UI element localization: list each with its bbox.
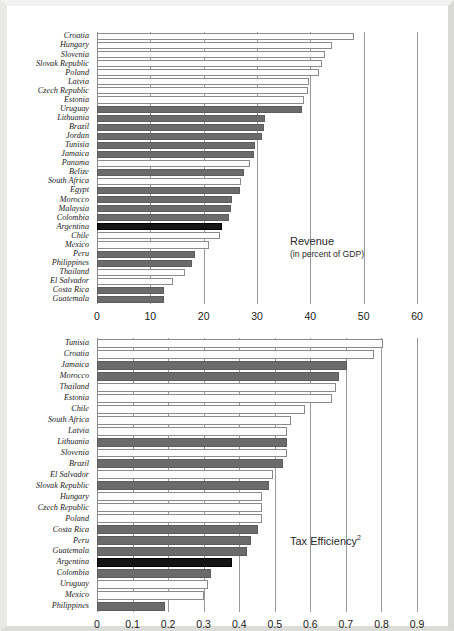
bar-row[interactable]: [97, 150, 417, 159]
bar-row[interactable]: [97, 32, 417, 41]
bar-czech-republic[interactable]: [97, 503, 262, 512]
bar-croatia[interactable]: [97, 350, 374, 359]
bar-belize[interactable]: [97, 169, 244, 176]
bar-jamaica[interactable]: [97, 151, 254, 158]
bar-argentina[interactable]: [97, 558, 232, 567]
bar-row[interactable]: [97, 295, 417, 304]
bar-poland[interactable]: [97, 514, 262, 523]
bar-estonia[interactable]: [97, 394, 332, 403]
bar-row[interactable]: [97, 132, 417, 141]
bar-latvia[interactable]: [97, 427, 287, 436]
bar-row[interactable]: [97, 259, 417, 268]
bar-slovenia[interactable]: [97, 51, 325, 58]
bar-guatemala[interactable]: [97, 547, 247, 556]
bar-uruguay[interactable]: [97, 580, 208, 589]
bar-row[interactable]: [97, 286, 417, 295]
bar-row[interactable]: [97, 568, 417, 579]
bar-morocco[interactable]: [97, 372, 339, 381]
bar-row[interactable]: [97, 59, 417, 68]
bar-morocco[interactable]: [97, 196, 232, 203]
bar-row[interactable]: [97, 557, 417, 568]
bar-row[interactable]: [97, 177, 417, 186]
bar-slovenia[interactable]: [97, 449, 287, 458]
bar-row[interactable]: [97, 204, 417, 213]
bar-row[interactable]: [97, 231, 417, 240]
bar-row[interactable]: [97, 437, 417, 448]
bar-row[interactable]: [97, 458, 417, 469]
bar-row[interactable]: [97, 382, 417, 393]
bar-row[interactable]: [97, 579, 417, 590]
bar-row[interactable]: [97, 41, 417, 50]
bar-row[interactable]: [97, 546, 417, 557]
bar-brazil[interactable]: [97, 124, 264, 131]
bar-row[interactable]: [97, 105, 417, 114]
bar-costa-rica[interactable]: [97, 525, 258, 534]
bar-row[interactable]: [97, 213, 417, 222]
bar-row[interactable]: [97, 601, 417, 612]
bar-chile[interactable]: [97, 232, 220, 239]
bar-row[interactable]: [97, 95, 417, 104]
bar-row[interactable]: [97, 469, 417, 480]
bar-brazil[interactable]: [97, 459, 283, 468]
bar-row[interactable]: [97, 426, 417, 437]
bar-row[interactable]: [97, 371, 417, 382]
bar-thailand[interactable]: [97, 383, 336, 392]
bar-peru[interactable]: [97, 536, 251, 545]
bar-row[interactable]: [97, 222, 417, 231]
bar-row[interactable]: [97, 480, 417, 491]
bar-panama[interactable]: [97, 160, 250, 167]
bar-row[interactable]: [97, 50, 417, 59]
bar-row[interactable]: [97, 277, 417, 286]
bar-chile[interactable]: [97, 405, 305, 414]
bar-philippines[interactable]: [97, 602, 165, 611]
bar-row[interactable]: [97, 195, 417, 204]
bar-malaysia[interactable]: [97, 205, 231, 212]
bar-row[interactable]: [97, 68, 417, 77]
bar-peru[interactable]: [97, 251, 195, 258]
bar-guatemala[interactable]: [97, 296, 164, 303]
bar-colombia[interactable]: [97, 214, 229, 221]
bar-costa-rica[interactable]: [97, 287, 164, 294]
bar-tunisia[interactable]: [97, 142, 255, 149]
bar-lithuania[interactable]: [97, 438, 287, 447]
bar-row[interactable]: [97, 349, 417, 360]
bar-jordan[interactable]: [97, 133, 262, 140]
bar-row[interactable]: [97, 502, 417, 513]
bar-el-salvador[interactable]: [97, 470, 273, 479]
bar-row[interactable]: [97, 168, 417, 177]
bar-row[interactable]: [97, 491, 417, 502]
bar-colombia[interactable]: [97, 569, 211, 578]
bar-south-africa[interactable]: [97, 178, 241, 185]
bar-lithuania[interactable]: [97, 115, 265, 122]
bar-czech-republic[interactable]: [97, 87, 308, 94]
bar-row[interactable]: [97, 448, 417, 459]
bar-latvia[interactable]: [97, 78, 309, 85]
bar-row[interactable]: [97, 86, 417, 95]
bar-el-salvador[interactable]: [97, 278, 173, 285]
bar-tunisia[interactable]: [97, 339, 383, 348]
bar-row[interactable]: [97, 240, 417, 249]
bar-south-africa[interactable]: [97, 416, 291, 425]
bar-uruguay[interactable]: [97, 106, 302, 113]
bar-philippines[interactable]: [97, 260, 192, 267]
bar-row[interactable]: [97, 404, 417, 415]
bar-jamaica[interactable]: [97, 361, 347, 370]
bar-poland[interactable]: [97, 69, 319, 76]
bar-row[interactable]: [97, 360, 417, 371]
bar-hungary[interactable]: [97, 42, 332, 49]
bar-row[interactable]: [97, 77, 417, 86]
bar-mexico[interactable]: [97, 241, 209, 248]
bar-row[interactable]: [97, 415, 417, 426]
bar-row[interactable]: [97, 268, 417, 277]
bar-row[interactable]: [97, 250, 417, 259]
bar-row[interactable]: [97, 141, 417, 150]
bar-row[interactable]: [97, 590, 417, 601]
bar-row[interactable]: [97, 393, 417, 404]
bar-hungary[interactable]: [97, 492, 262, 501]
bar-estonia[interactable]: [97, 96, 304, 103]
bar-slovak-republic[interactable]: [97, 481, 269, 490]
bar-croatia[interactable]: [97, 33, 354, 40]
bar-mexico[interactable]: [97, 591, 204, 600]
bar-argentina[interactable]: [97, 223, 222, 230]
bar-row[interactable]: [97, 123, 417, 132]
